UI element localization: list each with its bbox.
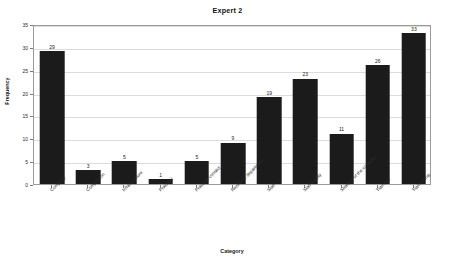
bar[interactable]: [40, 51, 65, 184]
bar-group[interactable]: 3: [70, 26, 106, 184]
bar[interactable]: [365, 65, 390, 184]
y-tick-label: 30: [22, 45, 28, 51]
bar-group[interactable]: 26: [360, 26, 396, 184]
y-tick-label: 35: [22, 22, 28, 28]
bar-value-label: 3: [87, 163, 90, 169]
bar-group[interactable]: 9: [215, 26, 251, 184]
bar-group[interactable]: 5: [179, 26, 215, 184]
bar-value-label: 29: [49, 44, 55, 50]
bar[interactable]: [257, 97, 282, 184]
bar-value-label: 33: [411, 26, 417, 32]
bar-group[interactable]: 33: [396, 26, 432, 184]
y-tick-label: 0: [25, 182, 28, 188]
bar-group[interactable]: 11: [323, 26, 359, 184]
bar-value-label: 5: [195, 154, 198, 160]
bar-value-label: 9: [232, 135, 235, 141]
bar-group[interactable]: 1: [143, 26, 179, 184]
bar-value-label: 23: [303, 71, 309, 77]
y-axis-title: Frequency: [4, 61, 10, 121]
y-tick-label: 20: [22, 91, 28, 97]
y-tick-label: 15: [22, 113, 28, 119]
x-axis-title: Category: [33, 248, 431, 254]
bar-value-label: 11: [339, 126, 344, 132]
bar-value-label: 19: [266, 90, 272, 96]
bar[interactable]: [402, 33, 427, 184]
bar-group[interactable]: 23: [287, 26, 323, 184]
bar-chart-figure: Expert 2 05101520253035 Frequency 293515…: [0, 0, 455, 268]
y-tick-label: 25: [22, 68, 28, 74]
bar-value-label: 26: [375, 58, 381, 64]
bar[interactable]: [293, 79, 318, 184]
y-tick-label: 10: [22, 136, 28, 142]
y-tick-label: 5: [25, 159, 28, 165]
bar-group[interactable]: 5: [106, 26, 142, 184]
bar-value-label: 1: [159, 172, 162, 178]
bar-group[interactable]: 19: [251, 26, 287, 184]
x-axis-labels: CompanyCompetitionInfrastructurePractica…: [33, 188, 431, 246]
bar-value-label: 5: [123, 154, 126, 160]
bar-group[interactable]: 29: [34, 26, 70, 184]
chart-title: Expert 2: [0, 6, 455, 15]
